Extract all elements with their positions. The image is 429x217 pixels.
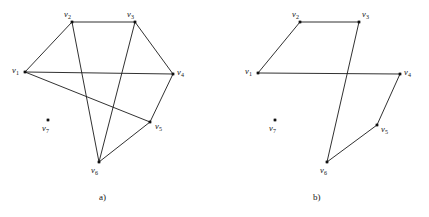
graph-vertex-v7 (274, 119, 276, 121)
graph-vertex-v4 (172, 73, 174, 75)
vertex-label-subscript: 4 (181, 72, 184, 78)
vertex-label-subscript: 3 (366, 14, 369, 20)
vertex-label-subscript: 1 (249, 71, 252, 77)
vertex-label-subscript: 1 (16, 70, 19, 76)
panel-caption-panel-a: a) (99, 192, 106, 202)
graph-edge-v5-v6 (99, 122, 150, 162)
graph-vertex-v4 (399, 73, 401, 75)
vertex-label-subscript: 6 (95, 170, 98, 176)
graph-vertex-v1 (257, 72, 259, 74)
graph-vertex-v5 (376, 124, 378, 126)
vertex-label-v7: v7 (42, 124, 49, 133)
graph-vertex-v2 (299, 21, 301, 23)
vertex-label-v3: v3 (127, 10, 134, 19)
graph-edge-v3-v4 (135, 22, 173, 74)
vertex-label-v2: v2 (64, 10, 71, 19)
graph-vertex-v6 (98, 161, 100, 163)
vertex-label-subscript: 4 (408, 72, 411, 78)
vertex-label-v5: v5 (155, 122, 162, 131)
graph-vertex-v3 (358, 21, 360, 23)
graph-edge-v3-v6 (99, 22, 135, 162)
vertex-label-v4: v4 (177, 68, 184, 77)
vertex-label-v7: v7 (269, 124, 276, 133)
vertex-label-v1: v1 (12, 66, 19, 75)
graph-edge-v1-v2 (25, 22, 72, 72)
vertex-label-v3: v3 (362, 10, 369, 19)
vertex-label-subscript: 3 (131, 14, 134, 20)
vertex-label-subscript: 6 (324, 170, 327, 176)
vertex-label-v6: v6 (320, 166, 327, 175)
vertices-layer (24, 21, 401, 163)
vertex-label-subscript: 2 (68, 14, 71, 20)
graph-vertex-v2 (71, 21, 73, 23)
graph-vertex-v5 (149, 121, 151, 123)
graph-vertex-v3 (134, 21, 136, 23)
graph-edge-v1-v4 (258, 73, 400, 74)
edges-layer (25, 22, 400, 162)
graph-figure: v1v2v3v4v5v6v7a)v1v2v3v4v5v6v7b) (0, 0, 429, 217)
vertex-label-subscript: 2 (296, 14, 299, 20)
vertex-label-v1: v1 (245, 67, 252, 76)
graph-edge-v1-v5 (25, 72, 150, 122)
vertex-label-v5: v5 (381, 125, 388, 134)
vertex-label-subscript: 7 (273, 128, 276, 134)
graph-canvas (0, 0, 429, 217)
panel-caption-panel-b: b) (313, 192, 321, 202)
graph-vertex-v6 (326, 161, 328, 163)
graph-vertex-v7 (47, 119, 49, 121)
graph-vertex-v1 (24, 71, 26, 73)
vertex-label-subscript: 5 (159, 126, 162, 132)
graph-edge-v1-v2 (258, 22, 300, 73)
vertex-label-v6: v6 (91, 166, 98, 175)
vertex-label-v2: v2 (292, 10, 299, 19)
vertex-label-subscript: 7 (46, 128, 49, 134)
graph-edge-v4-v5 (150, 74, 173, 122)
graph-edge-v1-v4 (25, 72, 173, 74)
graph-edge-v3-v6 (327, 22, 359, 162)
graph-edge-v4-v5 (377, 74, 400, 125)
vertex-label-subscript: 5 (385, 129, 388, 135)
vertex-label-v4: v4 (404, 68, 411, 77)
